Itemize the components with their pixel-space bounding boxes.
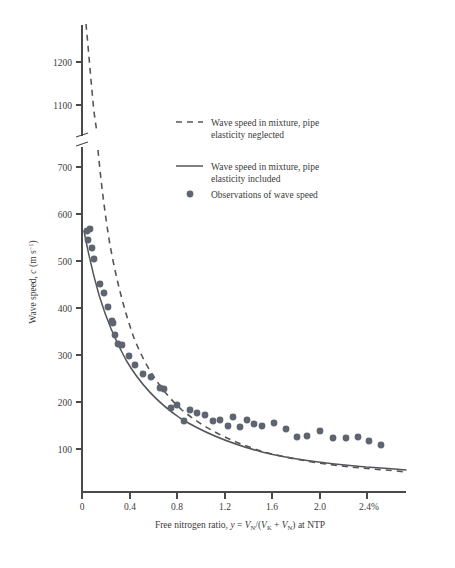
xtick-label-24: 2.4% [359, 502, 379, 512]
svg-text:Free nitrogen ratio, y = VN/(V: Free nitrogen ratio, y = VN/(VK + VN) at… [155, 520, 325, 531]
ytick-label-700: 700 [58, 163, 73, 173]
ytick-label-600: 600 [58, 210, 73, 220]
xaxis-title-lead: Free nitrogen ratio, [155, 520, 230, 530]
ytick-label-300: 300 [58, 351, 73, 361]
legend-label-solid-line1: Wave speed in mixture, pipe [211, 162, 319, 172]
legend: Wave speed in mixture, pipe elasticity n… [176, 118, 319, 200]
legend-label-solid-line2: elasticity included [211, 174, 281, 184]
obs-point [251, 421, 258, 428]
obs-point [91, 256, 98, 263]
obs-point [126, 353, 133, 360]
ytick-label-1100: 1100 [53, 101, 72, 111]
ytick-label-200: 200 [58, 398, 73, 408]
obs-point [210, 418, 217, 425]
axis-break-marks [76, 133, 88, 146]
obs-point [244, 417, 251, 424]
obs-point [378, 442, 385, 449]
xtick-label-0: 0 [80, 502, 85, 512]
y-axis-lower: 700 600 500 400 300 200 100 [58, 147, 82, 492]
yaxis-title-lead: Wave speed, [28, 274, 38, 324]
obs-point [294, 434, 301, 441]
obs-point [110, 320, 117, 327]
xaxis-title-close: ) at NTP [292, 520, 325, 531]
xtick-label-08: 0.8 [171, 502, 183, 512]
xtick-label-04: 0.4 [124, 502, 136, 512]
obs-point [174, 402, 181, 409]
legend-dot-icon [187, 191, 194, 198]
figure-container: 1200 1100 700 600 500 400 300 200 100 [0, 0, 455, 568]
ytick-label-100: 100 [58, 445, 73, 455]
obs-point [181, 418, 188, 425]
obs-point [85, 237, 92, 244]
obs-point [161, 386, 168, 393]
ytick-label-1200: 1200 [53, 58, 72, 68]
obs-point [217, 417, 224, 424]
obs-point [87, 226, 94, 233]
obs-point [271, 420, 278, 427]
obs-point [355, 434, 362, 441]
x-axis-title: Free nitrogen ratio, y = VN/(VK + VN) at… [155, 520, 325, 531]
legend-label-dashed-line1: Wave speed in mixture, pipe [211, 118, 319, 128]
obs-point [202, 412, 209, 419]
ytick-label-500: 500 [58, 257, 73, 267]
obs-point [259, 423, 266, 430]
obs-point [194, 410, 201, 417]
obs-point [304, 433, 311, 440]
wave-speed-chart: 1200 1100 700 600 500 400 300 200 100 [0, 0, 455, 568]
legend-label-observations: Observations of wave speed [211, 190, 318, 200]
yaxis-title-unit-open: (m s [28, 250, 39, 269]
yaxis-title-exp: −1 [27, 243, 34, 250]
xtick-label-16: 1.6 [266, 502, 278, 512]
obs-point [140, 371, 147, 378]
obs-point [187, 407, 194, 414]
obs-point [119, 342, 126, 349]
obs-point [283, 426, 290, 433]
obs-point [89, 245, 96, 252]
obs-point [330, 435, 337, 442]
legend-entry-dashed: Wave speed in mixture, pipe elasticity n… [176, 118, 319, 141]
obs-point [112, 332, 119, 339]
yaxis-title-unit-close: ) [28, 240, 39, 243]
legend-label-dashed-line2: elasticity neglected [211, 130, 284, 140]
obs-point [132, 362, 139, 369]
obs-point [105, 304, 112, 311]
obs-point [225, 423, 232, 430]
obs-point [101, 290, 108, 297]
y-axis-upper: 1200 1100 [53, 25, 82, 136]
obs-point [237, 424, 244, 431]
obs-point [230, 414, 237, 421]
xtick-label-12: 1.2 [219, 502, 231, 512]
series-dashed-upper [86, 24, 97, 133]
xaxis-title-plus: + [272, 520, 282, 530]
y-axis-title: Wave speed, c (m s−1) [27, 240, 39, 324]
legend-entry-observations: Observations of wave speed [187, 190, 318, 200]
obs-point [148, 374, 155, 381]
legend-entry-solid: Wave speed in mixture, pipe elasticity i… [176, 162, 319, 185]
xaxis-title-eq: = [235, 520, 245, 530]
obs-point [317, 428, 324, 435]
observation-points [84, 226, 385, 449]
obs-point [343, 435, 350, 442]
svg-text:Wave speed, c (m s−1): Wave speed, c (m s−1) [27, 240, 39, 324]
x-axis: 0 0.4 0.8 1.2 1.6 2.0 2.4% [80, 492, 406, 512]
xtick-label-20: 2.0 [314, 502, 326, 512]
ytick-label-400: 400 [58, 304, 73, 314]
obs-point [366, 438, 373, 445]
obs-point [168, 405, 175, 412]
obs-point [97, 281, 104, 288]
